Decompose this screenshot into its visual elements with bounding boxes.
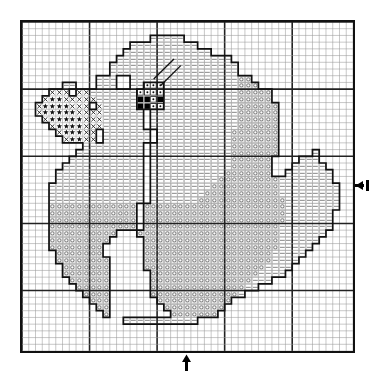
chart-subtitle: Symbol chart, 49 x 49 stitch grid (0, 0, 1, 1)
stitch-cell (218, 156, 225, 163)
stitch-cell (252, 129, 259, 136)
stitch-cell (198, 150, 205, 157)
stitch-cell (218, 277, 225, 284)
stitch-cell (184, 297, 191, 304)
stitch-cell (150, 42, 157, 49)
stitch-cell (96, 96, 103, 103)
stitch-cell (231, 264, 238, 271)
stitch-cell (110, 223, 117, 230)
stitch-cell (83, 257, 90, 264)
stitch-cell (150, 163, 157, 170)
stitch-cell (117, 62, 124, 69)
stitch-cell (252, 170, 259, 177)
stitch-cell (96, 257, 103, 264)
stitch-cell (56, 190, 63, 197)
stitch-cell (171, 163, 178, 170)
stitch-cell (150, 35, 157, 42)
stitch-cell (258, 170, 265, 177)
stitch-cell (225, 170, 232, 177)
stitch-cell (279, 197, 286, 204)
stitch-cell (252, 89, 259, 96)
stitch-cell (103, 284, 110, 291)
stitch-cell (117, 170, 124, 177)
stitch-cell (279, 183, 286, 190)
stitch-cell (231, 217, 238, 224)
stitch-cell (164, 49, 171, 56)
pattern-grid[interactable] (20, 20, 355, 353)
stitch-cell (90, 217, 97, 224)
stitch-cell (204, 163, 211, 170)
stitch-cell (292, 244, 299, 251)
stitch-cell (225, 297, 232, 304)
stitch-cell (252, 203, 259, 210)
stitch-cell (130, 156, 137, 163)
stitch-cell (225, 223, 232, 230)
stitch-cell (137, 197, 144, 204)
stitch-cell (204, 82, 211, 89)
stitch-cell (96, 176, 103, 183)
stitch-cell (211, 69, 218, 76)
stitch-cell (137, 76, 144, 83)
stitch-cell (191, 76, 198, 83)
stitch-cell (42, 103, 49, 110)
stitch-cell (312, 190, 319, 197)
stitch-cell (110, 82, 117, 89)
stitch-cell (76, 129, 83, 136)
stitch-cell (225, 197, 232, 204)
stitch-cell (171, 42, 178, 49)
stitch-cell (96, 109, 103, 116)
stitch-cell (164, 297, 171, 304)
stitch-cell (137, 150, 144, 157)
stitch-cell (123, 210, 130, 217)
stitch-cell (191, 230, 198, 237)
stitch-cell (83, 291, 90, 298)
stitch-cell (252, 264, 259, 271)
stitch-cell (198, 96, 205, 103)
stitch-cell (191, 143, 198, 150)
stitch-cell (56, 210, 63, 217)
stitch-cell (177, 42, 184, 49)
stitch-cell (204, 217, 211, 224)
stitch-cell (63, 264, 70, 271)
stitch-cell (76, 103, 83, 110)
stitch-cell (56, 123, 63, 130)
stitch-cell (225, 116, 232, 123)
stitch-cell (177, 304, 184, 311)
stitch-cell (150, 223, 157, 230)
stitch-cell (252, 217, 259, 224)
stitch-cell (150, 49, 157, 56)
stitch-cell (103, 304, 110, 311)
stitch-cell (238, 203, 245, 210)
stitch-cell (157, 297, 164, 304)
stitch-cell (204, 264, 211, 271)
stitch-cell (299, 237, 306, 244)
stitch-cell (96, 250, 103, 257)
stitch-cell (103, 103, 110, 110)
stitch-cell (164, 123, 171, 130)
stitch-cell (110, 136, 117, 143)
stitch-cell (171, 56, 178, 63)
stitch-cell (177, 116, 184, 123)
stitch-cell (157, 49, 164, 56)
stitch-cell (231, 270, 238, 277)
stitch-cell (211, 203, 218, 210)
stitch-cell (90, 176, 97, 183)
stitch-cell (238, 230, 245, 237)
stitch-cell (198, 143, 205, 150)
stitch-cell (171, 230, 178, 237)
center-marker-right (355, 180, 372, 191)
stitch-cell (272, 203, 279, 210)
stitch-cell (292, 250, 299, 257)
stitch-cell (225, 129, 232, 136)
stitch-cell (279, 230, 286, 237)
stitch-cell (272, 103, 279, 110)
stitch-cell (265, 170, 272, 177)
stitch-cell (56, 116, 63, 123)
stitch-cell (117, 203, 124, 210)
stitch-cell (150, 190, 157, 197)
stitch-cell (117, 223, 124, 230)
stitch-cell (326, 203, 333, 210)
stitch-cell (117, 96, 124, 103)
stitch-cell (245, 257, 252, 264)
stitch-cell (306, 197, 313, 204)
